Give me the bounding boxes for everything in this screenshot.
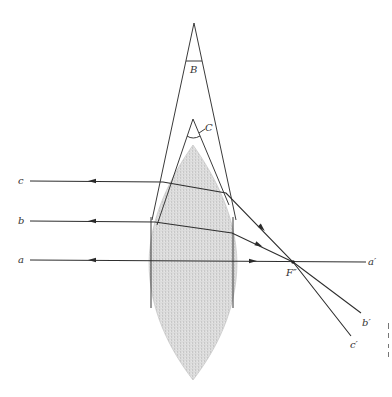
label-a-out: a′ [368,256,377,267]
angle-c-arc [187,136,200,138]
focal-point [291,260,295,264]
lens-prism-diagram: B C c c′ b b′ a a′ F″ [0,0,392,397]
label-focal-point: F″ [285,267,297,278]
label-c-in: c [18,175,24,186]
label-c-out: c′ [350,339,359,350]
label-c: C [205,122,213,133]
label-b: B [189,64,197,75]
label-b-out: b′ [362,317,371,328]
convex-lens [149,145,237,380]
label-a-in: a [18,254,24,265]
label-b-in: b [18,215,24,226]
page-edge-marks [388,323,389,357]
